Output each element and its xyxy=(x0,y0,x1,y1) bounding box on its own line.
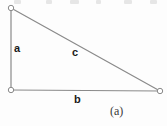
vertex-marker-bottom-right xyxy=(157,88,162,93)
vertex-marker-bottom-left xyxy=(8,87,13,92)
side-label-b: b xyxy=(74,94,81,105)
side-label-a: a xyxy=(14,43,20,54)
vertex-marker-top-left xyxy=(8,5,13,10)
triangle-edge-c xyxy=(11,8,160,91)
triangle-figure: a c b (a) xyxy=(0,0,167,126)
figure-caption: (a) xyxy=(110,104,123,118)
triangle-edge-b xyxy=(11,90,160,91)
side-label-c: c xyxy=(72,47,78,58)
triangle-diagram xyxy=(0,0,167,126)
